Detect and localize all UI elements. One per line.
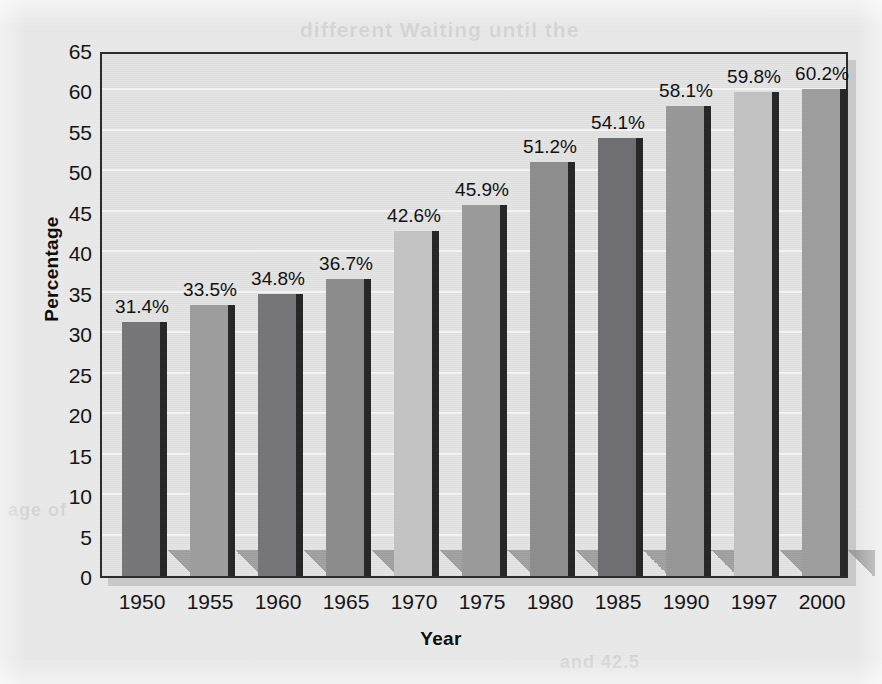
bar-value-label: 42.6% <box>387 205 441 227</box>
x-tick-label: 1960 <box>255 590 302 614</box>
x-tick-label: 1985 <box>595 590 642 614</box>
y-tick-label: 0 <box>36 566 92 590</box>
bar-drop-shadow <box>845 550 875 576</box>
bar-value-label: 33.5% <box>183 279 237 301</box>
scanned-page: different Waiting until the in the numbe… <box>0 0 882 684</box>
bar-value-label: 45.9% <box>455 179 509 201</box>
y-tick-label: 5 <box>36 526 92 550</box>
bar[interactable] <box>530 162 568 576</box>
bar-side-face <box>772 92 779 576</box>
bar-side-face <box>364 279 371 576</box>
bar-value-label: 60.2% <box>795 63 849 85</box>
bar-value-label: 51.2% <box>523 136 577 158</box>
bar[interactable] <box>666 106 704 576</box>
bar-side-face <box>432 231 439 576</box>
bar-value-label: 58.1% <box>659 80 713 102</box>
bar[interactable] <box>462 205 500 576</box>
x-tick-label: 1965 <box>323 590 370 614</box>
y-tick-label: 15 <box>36 445 92 469</box>
bar[interactable] <box>258 294 296 576</box>
bar[interactable] <box>122 322 160 576</box>
bar-value-label: 54.1% <box>591 112 645 134</box>
bar-side-face <box>704 106 711 576</box>
plot-area <box>100 52 848 578</box>
bar[interactable] <box>394 231 432 576</box>
bar-side-face <box>160 322 167 576</box>
x-tick-label: 1997 <box>731 590 778 614</box>
bleed-through-text-1: different Waiting until the <box>300 18 579 42</box>
bar-value-label: 31.4% <box>115 296 169 318</box>
bar[interactable] <box>598 138 636 576</box>
x-tick-label: 1980 <box>527 590 574 614</box>
x-tick-label: 1955 <box>187 590 234 614</box>
bar[interactable] <box>190 305 228 576</box>
bar-side-face <box>568 162 575 576</box>
bar-side-face <box>840 89 847 576</box>
x-tick-label: 1950 <box>119 590 166 614</box>
y-tick-label: 60 <box>36 80 92 104</box>
bleed-through-text-3: age of <box>8 500 67 521</box>
bar-value-label: 36.7% <box>319 253 373 275</box>
x-axis-title: Year <box>0 628 882 650</box>
x-tick-label: 2000 <box>799 590 846 614</box>
y-tick-label: 65 <box>36 40 92 64</box>
y-tick-label: 20 <box>36 404 92 428</box>
bar[interactable] <box>734 92 772 576</box>
gridline <box>102 88 846 90</box>
bar-value-label: 59.8% <box>727 66 781 88</box>
x-tick-label: 1990 <box>663 590 710 614</box>
bar[interactable] <box>326 279 364 576</box>
y-tick-label: 50 <box>36 161 92 185</box>
x-tick-label: 1970 <box>391 590 438 614</box>
bar-value-label: 34.8% <box>251 268 305 290</box>
bar-side-face <box>500 205 507 576</box>
bar-side-face <box>636 138 643 576</box>
y-tick-label: 25 <box>36 364 92 388</box>
x-tick-label: 1975 <box>459 590 506 614</box>
bleed-through-text-4: and 42.5 <box>560 652 640 673</box>
y-tick-label: 55 <box>36 121 92 145</box>
bar-side-face <box>296 294 303 576</box>
bar-side-face <box>228 305 235 576</box>
bar[interactable] <box>802 89 840 576</box>
y-axis-title: Percentage <box>41 209 63 329</box>
